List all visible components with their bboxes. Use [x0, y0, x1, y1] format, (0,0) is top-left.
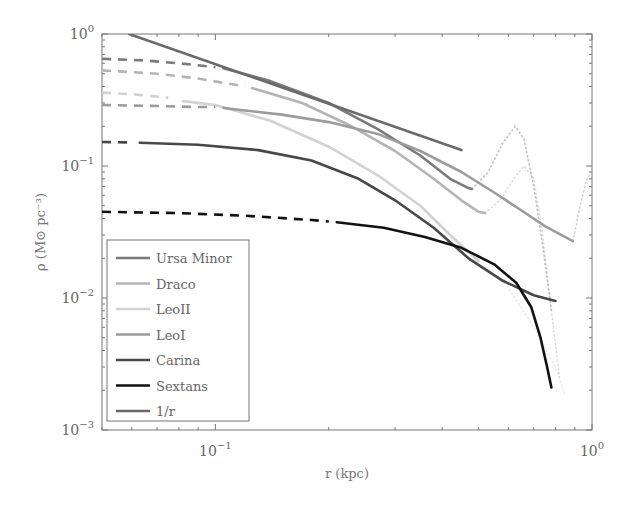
legend-label: Sextans [156, 379, 208, 394]
legend-label: Ursa Minor [156, 251, 232, 266]
x-tick-label: 10−1 [199, 440, 232, 459]
x-axis-label: r (kpc) [325, 466, 369, 481]
x-tick-label: 100 [580, 440, 604, 459]
y-tick-label: 10−3 [61, 419, 94, 438]
legend-label: Draco [156, 277, 196, 292]
legend-label: Carina [156, 353, 200, 368]
y-tick-label: 10−2 [61, 287, 94, 306]
y-tick-label: 10−1 [61, 155, 94, 174]
chart-canvas: 10−110010010−110−210−3 Ursa MinorDracoLe… [0, 0, 625, 507]
y-axis-label: ρ (M⊙ pc⁻³) [33, 193, 48, 271]
legend-label: 1/r [156, 404, 176, 419]
legend-label: LeoII [156, 302, 190, 317]
y-tick-label: 100 [70, 23, 94, 42]
legend: Ursa MinorDracoLeoIILeoICarinaSextans1/r [107, 240, 249, 421]
legend-label: LeoI [156, 328, 185, 343]
